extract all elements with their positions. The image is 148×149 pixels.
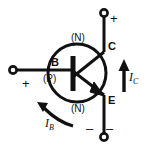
base-current-subscript: B xyxy=(49,123,54,132)
emitter-region-label: (N) xyxy=(71,104,85,114)
collector-terminal-node xyxy=(100,9,107,16)
emitter-terminal-label: E xyxy=(108,95,115,106)
base-terminal-node xyxy=(9,66,16,73)
emitter-negative-sign-right: – xyxy=(106,122,113,135)
base-terminal-label: B xyxy=(51,57,59,68)
collector-positive-sign: + xyxy=(110,12,118,25)
emitter-negative-sign-left: – xyxy=(86,122,93,135)
base-region-label: (P) xyxy=(43,74,56,84)
transistor-schematic-svg xyxy=(0,0,148,149)
base-current-arrow xyxy=(37,102,73,126)
collector-current-subscript: C xyxy=(133,77,138,86)
collector-current-label: IC xyxy=(129,71,138,86)
collector-internal-lead xyxy=(74,52,104,76)
collector-region-label: (N) xyxy=(71,33,85,43)
transistor-diagram: B C E (N) (P) (N) + + – – IC IB xyxy=(0,0,148,149)
base-positive-sign: + xyxy=(22,77,30,90)
base-current-label: IB xyxy=(45,117,54,132)
collector-terminal-label: C xyxy=(108,41,116,52)
collector-current-arrow xyxy=(119,59,130,92)
